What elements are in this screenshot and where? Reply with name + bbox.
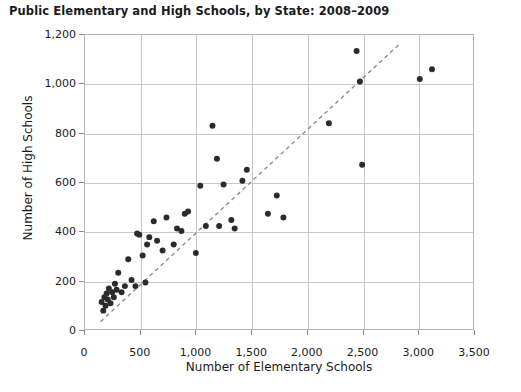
- data-point: [132, 283, 138, 289]
- data-point: [203, 223, 209, 229]
- data-point: [354, 48, 360, 54]
- data-point: [239, 178, 245, 184]
- data-points-layer: [85, 35, 473, 329]
- data-point: [228, 217, 234, 223]
- x-tick-label: 1,500: [235, 346, 267, 359]
- y-axis-title: Number of High Schools: [21, 68, 35, 268]
- y-tick-label: 1,000: [4, 77, 76, 90]
- data-point: [274, 192, 280, 198]
- x-tick-label: 0: [81, 346, 88, 359]
- x-tick-label: 2,500: [347, 346, 379, 359]
- data-point: [146, 234, 152, 240]
- x-tick-mark: [140, 330, 141, 335]
- y-tick-label: 800: [4, 126, 76, 139]
- x-tick-mark: [251, 330, 252, 335]
- data-point: [125, 256, 131, 262]
- data-point: [160, 248, 166, 254]
- x-axis-title: Number of Elementary Schools: [84, 360, 474, 374]
- data-point: [357, 79, 363, 85]
- data-point: [244, 167, 250, 173]
- x-tick-mark: [418, 330, 419, 335]
- x-tick-mark: [474, 330, 475, 335]
- data-point: [221, 181, 227, 187]
- data-point: [111, 294, 117, 300]
- data-point: [429, 66, 435, 72]
- data-point: [142, 279, 148, 285]
- y-tick-label: 0: [4, 324, 76, 337]
- data-point: [144, 241, 150, 247]
- x-tick-label: 3,500: [458, 346, 490, 359]
- data-point: [280, 215, 286, 221]
- chart-figure: Public Elementary and High Schools, by S…: [0, 0, 521, 392]
- x-tick-label: 3,000: [403, 346, 435, 359]
- data-point: [417, 76, 423, 82]
- data-point: [163, 215, 169, 221]
- x-tick-mark: [363, 330, 364, 335]
- data-point: [197, 183, 203, 189]
- data-point: [216, 223, 222, 229]
- y-tick-label: 1,200: [4, 28, 76, 41]
- data-point: [171, 241, 177, 247]
- x-tick-mark: [195, 330, 196, 335]
- data-point: [108, 300, 114, 306]
- data-point: [185, 208, 191, 214]
- data-point: [359, 162, 365, 168]
- x-tick-label: 1,000: [180, 346, 212, 359]
- data-point: [210, 123, 216, 129]
- data-point: [265, 211, 271, 217]
- y-tick-label: 400: [4, 225, 76, 238]
- data-point: [122, 283, 128, 289]
- data-point: [140, 253, 146, 259]
- plot-area: [84, 34, 474, 330]
- data-point: [136, 232, 142, 238]
- data-point: [115, 270, 121, 276]
- x-tick-label: 2,000: [291, 346, 323, 359]
- y-axis-tick-labels: 02004006008001,0001,200: [0, 0, 76, 392]
- data-point: [154, 238, 160, 244]
- data-point: [112, 281, 118, 287]
- data-point: [119, 289, 125, 295]
- data-point: [129, 277, 135, 283]
- data-point: [178, 228, 184, 234]
- x-axis-tick-labels: 05001,0001,5002,0002,5003,0003,500: [0, 336, 521, 356]
- data-point: [193, 250, 199, 256]
- data-point: [232, 226, 238, 232]
- data-point: [214, 156, 220, 162]
- y-tick-label: 600: [4, 176, 76, 189]
- data-point: [326, 120, 332, 126]
- y-tick-label: 200: [4, 274, 76, 287]
- x-tick-mark: [84, 330, 85, 335]
- x-tick-label: 500: [129, 346, 150, 359]
- x-tick-mark: [307, 330, 308, 335]
- data-point: [151, 218, 157, 224]
